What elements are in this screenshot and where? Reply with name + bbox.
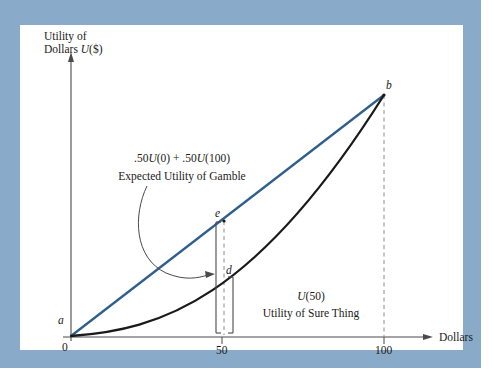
point-label-b: b [386, 79, 392, 92]
gamble-formula-p1: .50 [134, 152, 148, 164]
y-axis [68, 52, 74, 341]
origin-tick-label: 0 [62, 341, 68, 354]
utility-chart-svg [0, 0, 502, 388]
y-axis-title-line2-u: U [81, 43, 89, 55]
gamble-formula-u1: U [148, 152, 156, 164]
sure-formula-u: U [297, 290, 305, 302]
sure-formula-rest: (50) [306, 290, 325, 302]
x-tick-label-100: 100 [375, 344, 392, 357]
gamble-caption: Expected Utility of Gamble [96, 170, 268, 183]
sure-thing-annotation: U(50) Utility of Sure Thing [236, 290, 386, 320]
x-axis [63, 334, 433, 340]
point-label-d: d [226, 264, 232, 277]
x-axis-ticks [222, 337, 384, 344]
point-label-e: e [215, 207, 220, 220]
x-tick-label-50: 50 [216, 344, 228, 357]
bracket-expected-utility [216, 222, 221, 333]
x-axis-title: Dollars [439, 331, 473, 344]
sure-thing-caption: Utility of Sure Thing [236, 307, 386, 320]
gamble-annotation: .50U(0) + .50U(100) Expected Utility of … [96, 152, 268, 183]
point-label-a: a [58, 314, 64, 327]
figure-root: Utility of Dollars U($) Dollars 0 50 100… [0, 0, 502, 388]
y-axis-title: Utility of Dollars U($) [44, 30, 102, 56]
gamble-formula-p2: (0) + .50 [157, 152, 197, 164]
gamble-formula-u2: U [197, 152, 205, 164]
y-axis-title-line1: Utility of [44, 30, 87, 42]
gamble-leader-arrow [138, 186, 215, 278]
gamble-formula: .50U(0) + .50U(100) [134, 152, 230, 164]
bracket-sure-thing [228, 277, 233, 333]
y-axis-title-line2-suffix: ($) [89, 43, 102, 55]
gamble-formula-p3: (100) [205, 152, 230, 164]
y-axis-title-line2-prefix: Dollars [44, 43, 81, 55]
sure-formula: U(50) [297, 290, 324, 302]
